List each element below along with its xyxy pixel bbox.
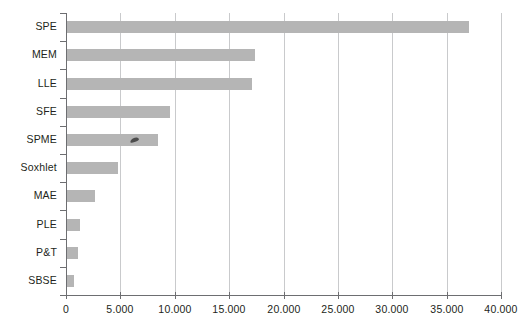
category-label-p-t: P&T: [36, 246, 57, 258]
value-axis-tick-label: 35.000: [430, 303, 463, 315]
category-label-spme: SPME: [26, 133, 57, 145]
bar-sfe: [67, 106, 170, 118]
value-axis-tick-label: 40.000: [484, 303, 517, 315]
value-axis-tick-label: 10.000: [158, 303, 191, 315]
category-axis-tick: [60, 13, 66, 14]
category-axis-tick: [60, 126, 66, 127]
bar-p-t: [67, 247, 78, 259]
value-axis-tick-label: 30.000: [375, 303, 408, 315]
bar-mae: [67, 190, 95, 202]
gridline: [392, 13, 393, 296]
bar-spme: [67, 134, 158, 146]
category-axis-tick: [60, 182, 66, 183]
category-axis-tick: [60, 267, 66, 268]
gridline: [447, 13, 448, 296]
value-axis-tick: [338, 292, 339, 299]
category-axis-tick: [60, 41, 66, 42]
gridline: [501, 13, 502, 296]
category-axis-tick: [60, 210, 66, 211]
value-axis-tick: [120, 292, 121, 299]
category-label-ple: PLE: [37, 218, 57, 230]
category-axis-tick: [60, 69, 66, 70]
gridline: [284, 13, 285, 296]
category-label-lle: LLE: [38, 77, 57, 89]
category-label-soxhlet: Soxhlet: [21, 161, 57, 173]
gridline: [338, 13, 339, 296]
category-label-mae: MAE: [34, 189, 57, 201]
value-axis-tick-label: 5.000: [106, 303, 133, 315]
value-axis-tick: [447, 292, 448, 299]
value-axis-tick-label: 0: [63, 303, 69, 315]
category-label-spe: SPE: [35, 20, 57, 32]
bar-lle: [67, 78, 252, 90]
category-label-mem: MEM: [32, 48, 57, 60]
value-axis-tick: [284, 292, 285, 299]
scan-speck-artifact-icon: [130, 137, 140, 144]
bar-mem: [67, 49, 255, 61]
value-axis-tick: [175, 292, 176, 299]
value-axis-tick-label: 25.000: [321, 303, 354, 315]
category-axis-tick: [60, 239, 66, 240]
category-axis-tick: [60, 98, 66, 99]
bar-spe: [67, 21, 469, 33]
bar-ple: [67, 219, 80, 231]
value-axis-tick: [501, 292, 502, 299]
value-axis-tick: [66, 292, 67, 299]
value-axis-tick: [229, 292, 230, 299]
value-axis-tick-label: 15.000: [212, 303, 245, 315]
category-label-sfe: SFE: [36, 105, 57, 117]
bar-chart: SPEMEMLLESFESPMESoxhletMAEPLEP&TSBSE 05.…: [0, 0, 531, 334]
bar-soxhlet: [67, 162, 118, 174]
value-axis-tick-label: 20.000: [267, 303, 300, 315]
category-axis-tick: [60, 154, 66, 155]
category-label-sbse: SBSE: [28, 274, 57, 286]
bar-sbse: [67, 275, 74, 287]
value-axis-tick: [392, 292, 393, 299]
